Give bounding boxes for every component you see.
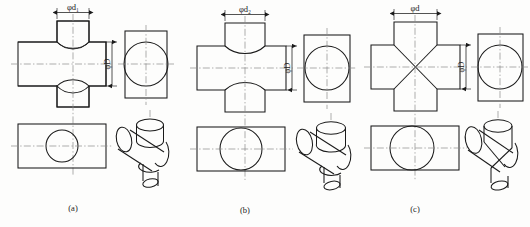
dim-label-small-a: φd₁ xyxy=(67,2,79,12)
panel-a: φd₁ φD xyxy=(11,2,174,213)
panel-b-side-view xyxy=(297,28,357,109)
dim-label-large-b: φD xyxy=(282,62,292,73)
dim-label-small-b: φd₂ xyxy=(239,4,251,14)
panel-b: φd₂ φD xyxy=(190,4,357,215)
panel-caption-b: (b) xyxy=(240,205,250,215)
panel-a-pictorial-view xyxy=(114,110,169,189)
intersection-line-2 xyxy=(491,148,512,168)
panel-a-side-view xyxy=(118,25,174,105)
drawing-canvas: .sl{fill:none;stroke:#1a1a1a;stroke-widt… xyxy=(0,0,530,227)
engineering-drawing-figure: .sl{fill:none;stroke:#1a1a1a;stroke-widt… xyxy=(0,0,530,227)
panel-c-dim-small: φd xyxy=(394,3,437,20)
panel-c-pictorial-view xyxy=(463,111,518,191)
panel-c: φd φD xyxy=(364,3,528,214)
panel-b-dim-large: φD xyxy=(282,46,297,90)
dim-label-large-a: φD xyxy=(102,58,112,69)
panel-c-side-view xyxy=(471,27,528,108)
panel-a-dim-large: φD xyxy=(102,42,117,86)
panel-c-front-view xyxy=(364,15,467,180)
panel-caption-a: (a) xyxy=(68,203,78,213)
panel-c-dim-large: φD xyxy=(456,45,471,89)
dim-label-small-c: φd xyxy=(410,3,420,13)
panel-b-pictorial-view xyxy=(294,113,351,191)
panel-a-top-view xyxy=(11,124,113,168)
panel-c-top-view xyxy=(364,126,467,170)
panel-b-front-view xyxy=(190,16,293,180)
panel-a-front-view xyxy=(11,14,113,176)
panel-caption-c: (c) xyxy=(410,204,420,214)
dim-label-large-c: φD xyxy=(456,61,466,72)
panel-b-top-view xyxy=(190,127,293,171)
